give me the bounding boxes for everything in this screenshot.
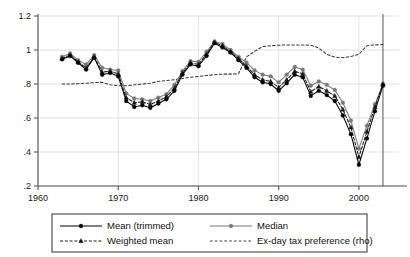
data-point-marker [293, 65, 297, 69]
data-point-marker [373, 109, 377, 113]
data-point-marker [293, 73, 297, 77]
data-point-marker [349, 119, 353, 123]
data-point-marker [237, 58, 241, 62]
data-point-marker [116, 74, 120, 78]
chart-canvas: .2.4.6.811.2 19601970198019902000 Mean (… [0, 0, 410, 257]
data-point-marker [205, 54, 209, 58]
data-point-marker [341, 114, 345, 118]
data-point-marker [341, 101, 345, 105]
x-tick-label: 1960 [28, 193, 48, 203]
data-point-marker [285, 73, 289, 77]
data-point-marker [301, 75, 305, 79]
data-point-marker [317, 89, 321, 93]
legend-label: Weighted mean [107, 235, 173, 246]
legend-label: Mean (trimmed) [107, 220, 174, 231]
legend-label: Median [257, 220, 288, 231]
y-tick-label: .4 [23, 147, 31, 157]
data-point-marker [293, 69, 297, 73]
data-point-marker [132, 97, 136, 101]
data-point-marker [309, 84, 313, 88]
x-tick-label: 1970 [108, 193, 128, 203]
data-point-marker [277, 89, 281, 93]
data-point-marker [381, 84, 385, 88]
y-tick-label: .6 [23, 113, 31, 123]
y-tick-label: 1 [26, 45, 31, 55]
data-point-marker [253, 69, 257, 73]
data-point-marker [285, 81, 289, 85]
data-point-marker [68, 54, 72, 58]
data-point-marker [229, 51, 233, 55]
chart-legend: Mean (trimmed)MedianWeighted meanEx-day … [52, 214, 373, 252]
legend-label: Ex-day tax preference (rho) [257, 235, 373, 246]
data-point-marker [317, 80, 321, 84]
grid-lines [38, 16, 399, 186]
data-point-marker [261, 73, 265, 77]
data-point-marker [365, 124, 369, 128]
series-median [60, 40, 385, 151]
series-mean-trimmed [60, 41, 385, 166]
data-point-marker [245, 66, 249, 70]
data-point-marker [100, 66, 104, 70]
data-point-marker [333, 99, 337, 103]
data-point-marker [213, 41, 217, 45]
y-tick-label: .8 [23, 79, 31, 89]
y-tick-label: 1.2 [18, 11, 31, 21]
data-point-marker [181, 73, 185, 77]
y-axis-ticks: .2.4.6.811.2 [18, 11, 38, 191]
series-weighted-mean [60, 40, 385, 159]
data-point-marker [189, 63, 193, 67]
data-point-marker [309, 94, 313, 98]
data-point-marker [357, 163, 361, 167]
data-point-marker [124, 99, 128, 103]
data-point-marker [108, 71, 112, 75]
data-point-marker [333, 88, 337, 92]
data-point-marker [132, 105, 136, 109]
chart-figure: .2.4.6.811.2 19601970198019902000 Mean (… [0, 0, 410, 257]
data-point-marker [269, 82, 273, 86]
x-tick-label: 1990 [269, 193, 289, 203]
data-point-marker [172, 89, 176, 93]
data-point-marker [76, 61, 80, 65]
data-point-marker [253, 75, 257, 79]
x-tick-label: 2000 [349, 193, 369, 203]
data-point-marker [301, 68, 305, 72]
data-point-marker [221, 46, 225, 50]
data-point-marker [365, 137, 369, 141]
data-point-marker [164, 97, 168, 101]
y-tick-label: .2 [23, 181, 31, 191]
data-point-marker [357, 147, 361, 151]
data-point-marker [140, 103, 144, 107]
data-point-marker [84, 68, 88, 72]
x-tick-label: 1980 [188, 193, 208, 203]
series-line [62, 45, 383, 86]
axis-lines [38, 14, 407, 186]
data-point-marker [60, 57, 64, 61]
data-point-marker [197, 64, 201, 68]
data-point-marker [148, 106, 152, 110]
x-axis-ticks: 19601970198019902000 [28, 186, 369, 203]
data-point-marker [92, 56, 96, 60]
data-point-marker [277, 80, 281, 84]
data-point-marker [333, 94, 337, 98]
data-point-marker [325, 93, 329, 97]
data-point-marker [79, 224, 83, 228]
data-point-marker [229, 224, 233, 228]
data-point-marker [317, 84, 321, 88]
series-line [62, 43, 383, 165]
data-point-marker [269, 74, 273, 78]
data-point-marker [325, 83, 329, 87]
data-point-marker [261, 80, 265, 84]
series-ex-day-tax-preference-rho [62, 45, 383, 86]
data-point-marker [349, 132, 353, 136]
data-point-marker [100, 73, 104, 77]
series-paths [60, 40, 385, 167]
data-point-marker [156, 102, 160, 106]
